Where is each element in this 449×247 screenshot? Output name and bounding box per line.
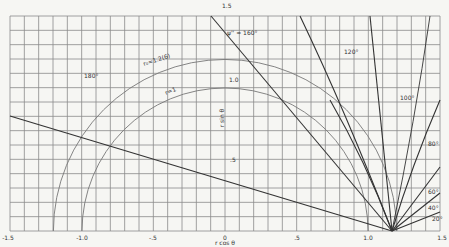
y-tick: 1.0 (229, 76, 239, 83)
label-40: 40° (428, 204, 439, 211)
label-120: 120° (344, 48, 358, 55)
label-180: 180° (84, 72, 98, 79)
label-r0: r₀=1.2(6) (142, 52, 171, 67)
y-tick: 1.5 (222, 2, 232, 9)
x-tick: .5 (294, 234, 300, 241)
label-60: 60° (428, 188, 439, 195)
label-r1: r=1 (164, 85, 177, 96)
ray-100 (370, 16, 392, 231)
x-tick: 1.0 (363, 234, 373, 241)
label-160: ψ'' = 160° (227, 29, 258, 37)
x-axis-label: r cos θ (215, 239, 235, 246)
x-tick: 1.5 (437, 234, 447, 241)
x-tick: -1.5 (2, 234, 14, 241)
y-tick-labels: .5 1.0 1.5 (222, 2, 239, 163)
y-axis-label: r sin θ (218, 108, 225, 127)
ray-160 (211, 16, 392, 231)
polar-chart: 180° ψ'' = 160° 120° 100° 80° 60° 40° 20… (0, 0, 449, 247)
grid (10, 16, 440, 231)
y-tick: .5 (230, 156, 236, 163)
label-20: 20° (432, 215, 443, 222)
x-tick: -.5 (149, 234, 157, 241)
label-100: 100° (400, 94, 414, 101)
x-tick: -1.0 (76, 234, 88, 241)
label-80: 80° (428, 140, 439, 147)
